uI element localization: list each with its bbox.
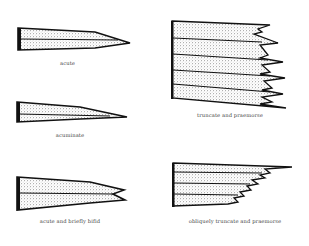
caption-acute: acute [50, 60, 85, 66]
caption-obliquely-truncate-praemorse: obliquely truncate and praemorse [175, 218, 295, 224]
caption-acuminate: acuminate [50, 132, 90, 138]
acuminate-leaf-figure [17, 102, 127, 122]
truncate-praemorse-leaf-figure [171, 21, 286, 108]
acute-bifid-leaf-figure [17, 177, 125, 210]
caption-acute-bifid: acute and briefly bifid [30, 218, 110, 224]
leaf-apex-diagram [0, 0, 309, 246]
caption-truncate-praemorse: truncate and praemorse [190, 112, 270, 118]
acute-leaf-figure [18, 28, 130, 50]
obliquely-truncate-praemorse-leaf-figure [172, 163, 292, 207]
